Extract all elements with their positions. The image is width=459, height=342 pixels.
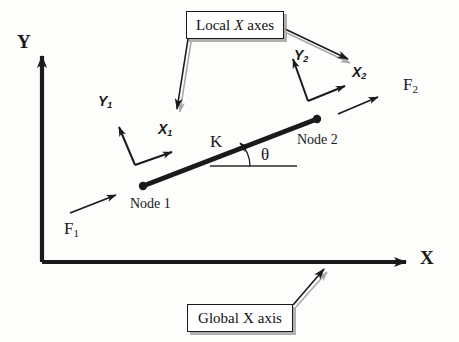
global-callout-leader-shadow <box>296 272 327 307</box>
local-x1-letter: X <box>158 121 167 137</box>
force-f1-arrow <box>70 195 116 213</box>
callout-global-x-axis: GlobalXaxis <box>187 304 293 332</box>
force-f2-label: F2 <box>403 76 418 93</box>
force-f1-subscript: 1 <box>73 227 79 239</box>
callout-global-suffix: axis <box>256 310 284 327</box>
local-y2-letter: Y <box>294 47 303 63</box>
callout-local-suffix: axes <box>245 17 276 34</box>
local-x2-letter: X <box>352 64 361 80</box>
local-x2-axis-arrow <box>308 86 345 101</box>
callout-local-prefix: Local <box>194 17 232 34</box>
local-x1-axis-arrow <box>135 152 172 165</box>
callout-local-x-axes: LocalXaxes <box>186 11 284 39</box>
callout-global-italic-x: X <box>241 310 256 327</box>
local-y1-letter: Y <box>98 93 107 109</box>
force-f1-label: F1 <box>64 220 79 237</box>
node-1-point <box>139 182 147 190</box>
local-x2-axis-label: X2 <box>352 65 366 79</box>
local-y1-axis-label: Y1 <box>98 94 112 108</box>
local-x1-subscript: 1 <box>167 128 172 138</box>
node-2-label: Node 2 <box>297 133 338 147</box>
local-y1-subscript: 1 <box>107 100 112 110</box>
force-f2-subscript: 2 <box>412 83 418 95</box>
diagram-canvas <box>0 0 459 342</box>
force-f2-arrow <box>338 97 378 114</box>
local-x2-subscript: 2 <box>361 71 366 81</box>
callout-local-italic-x: X <box>232 17 245 34</box>
local-y2-subscript: 2 <box>303 54 308 64</box>
stiffness-label: K <box>210 133 222 150</box>
engineering-diagram: Y X Y1 X1 Y2 X2 F1 F2 K θ Node 1 Node 2 … <box>0 0 459 342</box>
local-axes-node2-group <box>293 59 345 101</box>
local-y2-axis-label: Y2 <box>294 48 308 62</box>
global-y-axis-label: Y <box>17 32 31 51</box>
global-axes-group <box>42 56 406 262</box>
local-x1-axis-label: X1 <box>158 122 172 136</box>
callout-leaders-group <box>177 29 350 307</box>
local-y1-axis-arrow <box>119 127 135 165</box>
node-1-label: Node 1 <box>130 197 171 211</box>
angle-theta-label: θ <box>261 146 269 163</box>
local-y2-axis-arrow <box>293 59 308 101</box>
node-2-point <box>313 115 321 123</box>
global-x-axis-label: X <box>420 248 434 267</box>
callout-global-prefix: Global <box>196 310 241 327</box>
global-callout-leader <box>293 269 324 305</box>
